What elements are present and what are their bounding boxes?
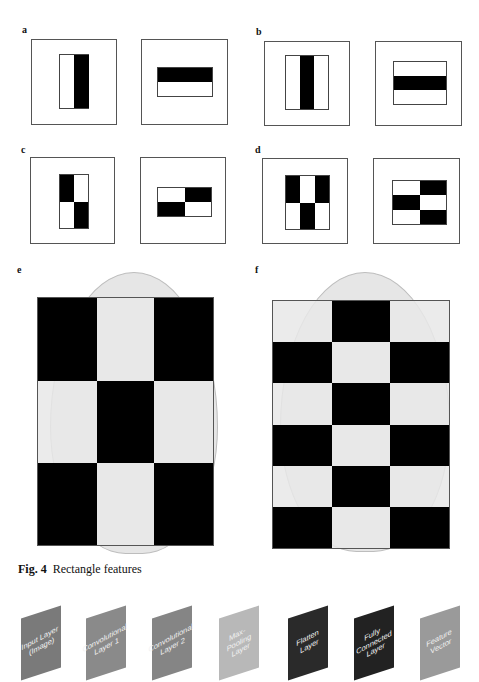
- layer-label: ConvolutionalLayer 2: [148, 623, 196, 663]
- black-region: [390, 507, 449, 548]
- black-region: [332, 301, 390, 342]
- feature-frame-b-left: [264, 41, 350, 126]
- layer-label: ConvolutionalLayer 1: [82, 623, 130, 663]
- black-region: [390, 425, 449, 466]
- black-region: [154, 463, 213, 545]
- layer-block: FeatureVector: [420, 606, 460, 681]
- feature-frame-c-right: [140, 157, 226, 244]
- black-region: [38, 463, 97, 545]
- layer-block: ConvolutionalLayer 1: [86, 606, 126, 681]
- white-region: [332, 425, 390, 466]
- four-rect-feature-vertical: [59, 174, 89, 229]
- haar-grid-e: [37, 297, 214, 546]
- line-feature-horizontal: [393, 61, 447, 105]
- white-region: [97, 463, 154, 545]
- black-region: [273, 342, 332, 383]
- black-region: [390, 342, 449, 383]
- feature-frame-a-left: [31, 39, 117, 125]
- white-region: [273, 383, 332, 424]
- layer-label: FlattenLayer: [295, 629, 321, 657]
- layer-label: Max-PoolingLayer: [217, 621, 262, 666]
- layer-block: ConvolutionalLayer 2: [152, 606, 192, 681]
- layer-label: Input Layer(Image): [21, 625, 61, 660]
- white-region: [154, 381, 213, 463]
- white-region: [273, 301, 332, 342]
- white-region: [390, 383, 449, 424]
- feature-frame-d-right: [373, 158, 460, 244]
- white-region: [97, 298, 154, 381]
- white-region: [332, 342, 390, 383]
- black-region: [273, 425, 332, 466]
- four-rect-feature-horizontal: [157, 187, 212, 217]
- black-region: [154, 298, 213, 381]
- panel-label-f: f: [255, 264, 258, 275]
- six-rect-feature-vertical: [285, 175, 330, 230]
- figure-caption: Fig. 4Rectangle features: [18, 562, 142, 577]
- panel-label-c: c: [21, 144, 25, 155]
- layer-block: Max-PoolingLayer: [219, 606, 259, 681]
- layer-label: Fully ConnectedLayer: [352, 621, 397, 666]
- black-region: [273, 507, 332, 548]
- feature-frame-a-right: [141, 39, 228, 125]
- haar-grid-f: [272, 300, 450, 549]
- layer-block: Input Layer(Image): [21, 606, 61, 681]
- layer-block: FlattenLayer: [288, 606, 328, 681]
- black-region: [332, 383, 390, 424]
- edge-feature-vertical: [59, 54, 89, 109]
- line-feature-vertical: [285, 55, 329, 110]
- panel-label-b: b: [256, 26, 262, 37]
- black-region: [97, 381, 154, 463]
- white-region: [38, 381, 97, 463]
- layer-label: FeatureVector: [426, 628, 455, 657]
- white-region: [390, 301, 449, 342]
- white-region: [273, 466, 332, 507]
- edge-feature-horizontal: [157, 67, 213, 97]
- figure-title: Rectangle features: [53, 562, 142, 576]
- white-region: [390, 466, 449, 507]
- panel-label-d: d: [255, 144, 261, 155]
- panel-label-a: a: [22, 24, 27, 35]
- black-region: [332, 466, 390, 507]
- feature-frame-b-right: [375, 41, 462, 126]
- feature-frame-c-left: [30, 157, 115, 244]
- black-region: [38, 298, 97, 381]
- feature-frame-d-left: [262, 158, 348, 244]
- figure-number: Fig. 4: [18, 562, 47, 576]
- white-region: [332, 507, 390, 548]
- six-rect-feature-horizontal: [392, 180, 447, 225]
- layer-block: Fully ConnectedLayer: [354, 606, 394, 681]
- panel-label-e: e: [17, 264, 21, 275]
